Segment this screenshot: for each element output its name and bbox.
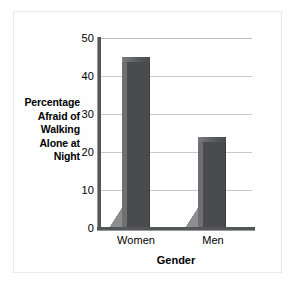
y-axis-title: Percentage Afraid of Walking Alone at Ni… [14, 96, 80, 164]
y-axis-title-line-2: Afraid of [14, 110, 80, 124]
gridline-50 [100, 38, 252, 39]
x-tick-label-men: Men [182, 234, 244, 246]
y-tick-label-50: 50 [70, 33, 94, 44]
x-axis-title: Gender [100, 254, 252, 266]
y-tick-label-40: 40 [70, 71, 94, 82]
y-axis-title-line-4: Alone at [14, 137, 80, 151]
bar-women [122, 57, 150, 228]
y-tick-label-0: 0 [70, 223, 94, 234]
y-axis-title-line-3: Walking [14, 123, 80, 137]
bar-women-face [127, 62, 150, 228]
y-axis-title-line-1: Percentage [14, 96, 80, 110]
x-tick-label-women: Women [102, 234, 170, 246]
bar-men [198, 137, 226, 228]
bar-chart-figure: 50 40 30 20 10 0 Percentage Afraid of Wa… [0, 0, 296, 286]
y-axis-line [97, 37, 101, 229]
y-axis-title-line-5: Night [14, 150, 80, 164]
bar-men-face [203, 142, 226, 228]
plot-area [100, 38, 252, 228]
y-tick-label-10: 10 [70, 185, 94, 196]
bar-women-top [122, 57, 150, 62]
bar-men-top [198, 137, 226, 142]
x-axis-line [97, 227, 255, 231]
